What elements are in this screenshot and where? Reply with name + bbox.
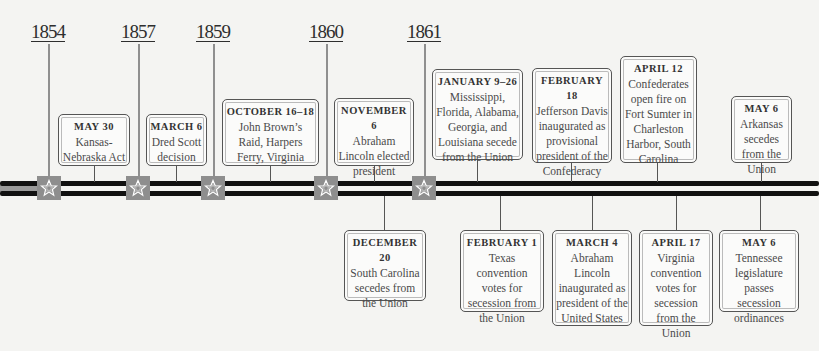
star-marker-1860: [314, 176, 338, 200]
event-text: Arkansas secedes from the Union: [735, 117, 788, 177]
connector: [94, 166, 95, 182]
event-date: FEBRUARY 18: [536, 73, 608, 103]
event-card-march-4-1861: MARCH 4 Abraham Lincoln inaugurated as p…: [552, 230, 632, 326]
connector: [592, 196, 593, 230]
event-card-may-30-1854: MAY 30 Kansas-Nebraska Act: [58, 114, 130, 166]
event-date: MARCH 4: [556, 235, 628, 250]
event-text: Texas convention votes for secession fro…: [464, 251, 540, 326]
year-label-1859: 1859: [196, 21, 230, 43]
star-marker-1857: [126, 176, 150, 200]
star-icon: [204, 179, 222, 197]
event-date: MAY 6: [735, 101, 788, 116]
event-card-january-9-26-1861: JANUARY 9–26 Mississippi, Florida, Alaba…: [432, 69, 523, 160]
event-card-april-12-1861: APRIL 12 Confederates open fire on Fort …: [620, 56, 697, 163]
year-label-1857: 1857: [121, 21, 155, 43]
event-text: Confederates open fire on Fort Sumter in…: [624, 77, 693, 167]
year-label-1861: 1861: [407, 21, 441, 43]
event-card-november-6-1860: NOVEMBER 6 Abraham Lincoln elected presi…: [334, 98, 414, 166]
event-text: South Carolina secedes from the Union: [348, 266, 422, 311]
star-marker-1859: [201, 176, 225, 200]
event-date: DECEMBER 20: [348, 235, 422, 265]
year-line-1859: [213, 44, 215, 180]
event-card-march-6-1857: MARCH 6 Dred Scott decision: [146, 114, 207, 166]
year-label-1860: 1860: [309, 21, 343, 43]
event-date: NOVEMBER 6: [338, 103, 410, 133]
year-line-1861: [424, 44, 426, 180]
event-date: JANUARY 9–26: [436, 74, 519, 89]
event-date: MARCH 6: [150, 119, 203, 134]
event-card-may-6-1861-arkansas: MAY 6 Arkansas secedes from the Union: [731, 96, 792, 163]
star-marker-1854: [37, 176, 61, 200]
event-date: OCTOBER 16–18: [226, 104, 315, 119]
event-card-october-16-18-1859: OCTOBER 16–18 John Brown’s Raid, Harpers…: [222, 99, 319, 166]
event-text: Kansas-Nebraska Act: [62, 135, 126, 165]
year-line-1860: [326, 44, 328, 180]
event-text: Jefferson Davis inaugurated as provision…: [536, 104, 608, 179]
event-text: Dred Scott decision: [150, 135, 203, 165]
event-date: MAY 6: [723, 235, 795, 250]
star-marker-1861: [412, 176, 436, 200]
connector: [500, 196, 501, 230]
star-icon: [317, 179, 335, 197]
event-text: John Brown’s Raid, Harpers Ferry, Virgin…: [226, 120, 315, 165]
connector: [760, 196, 761, 230]
event-date: MAY 30: [62, 119, 126, 134]
event-text: Virginia convention votes for secession …: [643, 251, 709, 341]
star-icon: [415, 179, 433, 197]
star-icon: [40, 179, 58, 197]
event-date: APRIL 12: [624, 61, 693, 76]
connector: [384, 196, 385, 230]
connector: [270, 166, 271, 182]
event-card-december-20-1860: DECEMBER 20 South Carolina secedes from …: [344, 230, 426, 301]
event-text: Abraham Lincoln inaugurated as president…: [556, 251, 628, 326]
year-line-1854: [48, 44, 50, 180]
event-card-may-6-1861-tennessee: MAY 6 Tennessee legislature passes seces…: [719, 230, 799, 312]
event-card-april-17-1861: APRIL 17 Virginia convention votes for s…: [639, 230, 713, 326]
connector: [676, 196, 677, 230]
event-text: Mississippi, Florida, Alabama, Georgia, …: [436, 90, 519, 165]
timeline-rope-lower: [0, 191, 819, 196]
year-label-1854: 1854: [31, 21, 65, 43]
timeline-rope-upper: [0, 181, 819, 186]
event-text: Tennessee legislature passes secession o…: [723, 251, 795, 326]
event-card-february-18-1861: FEBRUARY 18 Jefferson Davis inaugurated …: [532, 68, 612, 163]
event-date: APRIL 17: [643, 235, 709, 250]
star-icon: [129, 179, 147, 197]
year-line-1857: [138, 44, 140, 180]
event-card-february-1-1861: FEBRUARY 1 Texas convention votes for se…: [460, 230, 544, 312]
event-text: Abraham Lincoln elected president: [338, 134, 410, 179]
event-date: FEBRUARY 1: [464, 235, 540, 250]
connector: [176, 166, 177, 182]
